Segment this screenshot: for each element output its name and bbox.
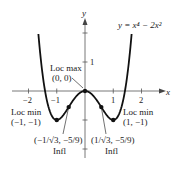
infl-right-point (99, 105, 103, 109)
y-axis-arrow-icon (83, 18, 88, 25)
x-tick-label-1: 1 (111, 95, 115, 105)
loc-max-coords: (0, 0) (52, 73, 72, 83)
infl-left-coords: (−1/√3, −5/9) (34, 135, 83, 145)
loc-min-right-point (111, 118, 115, 122)
loc-min-left-coords: (−1, −1) (11, 117, 41, 127)
infl-left-point (67, 105, 71, 109)
loc-max-label: Loc max (50, 63, 82, 73)
x-axis-arrow-icon (159, 89, 166, 94)
loc-min-left-point (55, 118, 59, 122)
y-axis-label: y (82, 8, 86, 18)
x-tick-label-neg1: −1 (51, 95, 60, 105)
loc-max-point (83, 89, 87, 93)
equation-label: y = x⁴ − 2x² (118, 20, 161, 30)
loc-min-right-label: Loc min (123, 107, 153, 117)
loc-min-right-coords: (1, −1) (123, 117, 148, 127)
x-axis-label: x (166, 87, 170, 97)
infl-right-coords: (1/√3, −5/9) (91, 135, 135, 145)
infl-right-label: Infl (105, 146, 118, 156)
loc-min-left-label: Loc min (11, 107, 41, 117)
x-tick-label-2: 2 (139, 95, 143, 105)
loc-max-leader (72, 78, 83, 88)
y-tick-label-1: 1 (90, 57, 94, 67)
infl-left-label: Infl (53, 146, 66, 156)
x-tick-label-neg2: −2 (23, 95, 32, 105)
